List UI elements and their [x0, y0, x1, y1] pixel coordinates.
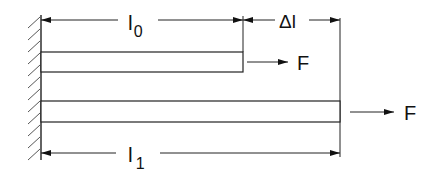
rod-stretched [41, 101, 340, 122]
rod-unstretched [41, 52, 243, 72]
label-force-top: F [297, 52, 309, 74]
fixed-wall [28, 15, 41, 160]
label-l1: l1 [128, 143, 145, 172]
dimension-l1: l1 [41, 143, 340, 172]
rod-extension-diagram: l0 Δl F F l1 [0, 0, 440, 181]
label-l0: l0 [128, 11, 143, 40]
label-force-bottom: F [404, 102, 416, 124]
dimension-l0: l0 [41, 11, 243, 40]
label-delta-l: Δl [279, 11, 296, 32]
dimension-delta-l: Δl [243, 11, 340, 32]
